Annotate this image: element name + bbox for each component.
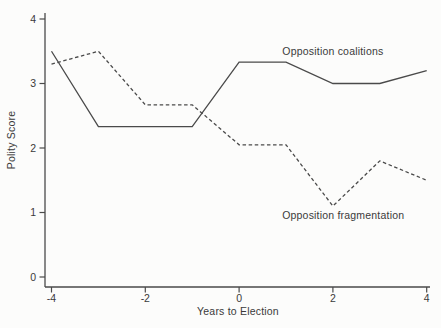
series-label-opposition-fragmentation: Opposition fragmentation (282, 209, 404, 221)
x-tick-label: -4 (47, 292, 56, 304)
y-tick-label: 0 (30, 271, 36, 283)
y-axis-label: Polity Score (5, 111, 17, 169)
series-label-opposition-coalitions: Opposition coalitions (282, 45, 383, 57)
x-tick-label: 4 (424, 292, 430, 304)
x-tick-label: -2 (141, 292, 150, 304)
x-tick-label: 0 (236, 292, 242, 304)
x-tick-label: 2 (330, 292, 336, 304)
y-tick-label: 2 (30, 142, 36, 154)
series-line-opposition-fragmentation (52, 51, 427, 206)
y-tick-label: 4 (30, 13, 36, 25)
y-tick-label: 3 (30, 77, 36, 89)
y-tick-label: 1 (30, 206, 36, 218)
x-axis-label: Years to Election (197, 305, 279, 317)
polity-score-line-chart: 01234-4-2024 Polity Score Years to Elect… (0, 0, 441, 328)
